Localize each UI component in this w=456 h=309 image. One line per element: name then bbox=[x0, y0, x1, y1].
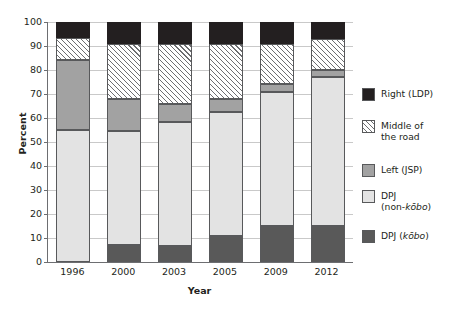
segment-right-ldp bbox=[209, 22, 243, 44]
legend-swatch-solid-light-gray bbox=[362, 190, 375, 203]
y-tick-label: 60 bbox=[14, 113, 42, 123]
bar-2005 bbox=[209, 22, 243, 262]
x-tick-label: 2012 bbox=[302, 266, 352, 277]
segment-left-jsp bbox=[107, 99, 141, 131]
segment-left-jsp bbox=[158, 104, 192, 122]
legend-label: Right (LDP) bbox=[381, 88, 433, 99]
segment-right-ldp bbox=[158, 22, 192, 44]
legend-item-5: DPJ (kōbo) bbox=[362, 230, 429, 243]
segment-dpj-kobo bbox=[107, 245, 141, 262]
bar-group bbox=[48, 22, 353, 262]
segment-left-jsp bbox=[311, 70, 345, 77]
segment-left-jsp bbox=[260, 84, 294, 91]
y-tick-label: 40 bbox=[14, 161, 42, 171]
y-axis-tick-labels: 0102030405060708090100 bbox=[14, 22, 42, 262]
segment-dpj-non-kobo bbox=[209, 112, 243, 236]
segment-dpj-non-kobo bbox=[158, 122, 192, 247]
segment-middle-of-the-road bbox=[158, 44, 192, 104]
segment-middle-of-the-road bbox=[260, 44, 294, 85]
y-tick-label: 20 bbox=[14, 209, 42, 219]
segment-middle-of-the-road bbox=[209, 44, 243, 99]
x-tick-label: 2009 bbox=[251, 266, 301, 277]
segment-right-ldp bbox=[56, 22, 90, 38]
segment-middle-of-the-road bbox=[56, 38, 90, 61]
legend-item-2: Middle ofthe road bbox=[362, 120, 423, 142]
x-tick-label: 2005 bbox=[200, 266, 250, 277]
segment-dpj-non-kobo bbox=[260, 92, 294, 226]
segment-dpj-non-kobo bbox=[56, 130, 90, 262]
y-tick-label: 70 bbox=[14, 89, 42, 99]
legend-label: Left (JSP) bbox=[381, 164, 422, 175]
segment-left-jsp bbox=[209, 99, 243, 112]
segment-dpj-kobo bbox=[311, 226, 345, 262]
bar-2003 bbox=[158, 22, 192, 262]
legend-swatch-solid-dark-gray bbox=[362, 230, 375, 243]
legend-swatch-solid-gray bbox=[362, 164, 375, 177]
segment-right-ldp bbox=[260, 22, 294, 44]
y-tick-label: 0 bbox=[14, 257, 42, 267]
bar-2012 bbox=[311, 22, 345, 262]
segment-dpj-non-kobo bbox=[107, 131, 141, 245]
segment-dpj-kobo bbox=[260, 226, 294, 262]
legend-swatch-solid-black bbox=[362, 88, 375, 101]
y-tick-label: 90 bbox=[14, 41, 42, 51]
segment-dpj-non-kobo bbox=[311, 77, 345, 226]
legend-label: DPJ(non-kōbo) bbox=[381, 190, 431, 212]
plot-area bbox=[47, 22, 353, 263]
x-axis-tick-labels: 199620002003200520092012 bbox=[47, 266, 352, 282]
bar-2009 bbox=[260, 22, 294, 262]
y-tick-label: 100 bbox=[14, 17, 42, 27]
segment-right-ldp bbox=[311, 22, 345, 39]
segment-left-jsp bbox=[56, 60, 90, 130]
segment-middle-of-the-road bbox=[311, 39, 345, 70]
y-tick-label: 30 bbox=[14, 185, 42, 195]
legend-item-4: DPJ(non-kōbo) bbox=[362, 190, 431, 212]
y-tick-label: 50 bbox=[14, 137, 42, 147]
segment-middle-of-the-road bbox=[107, 44, 141, 99]
bar-2000 bbox=[107, 22, 141, 262]
y-tick-label: 10 bbox=[14, 233, 42, 243]
legend-swatch-diagonal-hatch bbox=[362, 120, 375, 133]
x-tick-label: 2003 bbox=[149, 266, 199, 277]
stacked-bar-chart: Percent 0102030405060708090100 199620002… bbox=[0, 0, 456, 309]
legend-label: Middle ofthe road bbox=[381, 120, 423, 142]
bar-1996 bbox=[56, 22, 90, 262]
x-axis-title: Year bbox=[47, 285, 352, 296]
segment-right-ldp bbox=[107, 22, 141, 44]
legend-item-3: Left (JSP) bbox=[362, 164, 422, 177]
x-tick-label: 1996 bbox=[47, 266, 97, 277]
y-tickmark bbox=[44, 262, 48, 263]
legend-item-1: Right (LDP) bbox=[362, 88, 433, 101]
segment-dpj-kobo bbox=[209, 236, 243, 262]
legend-label: DPJ (kōbo) bbox=[381, 230, 429, 241]
y-tick-label: 80 bbox=[14, 65, 42, 75]
x-tick-label: 2000 bbox=[98, 266, 148, 277]
segment-dpj-kobo bbox=[158, 246, 192, 262]
